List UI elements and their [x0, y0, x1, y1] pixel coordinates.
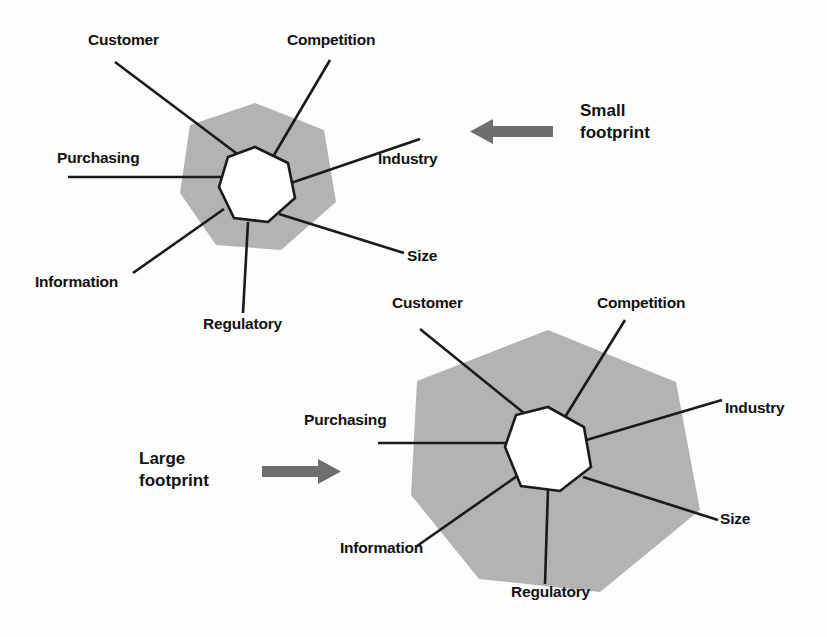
- small-label-customer: Customer: [88, 31, 159, 49]
- small-footprint-diagram: [68, 60, 420, 313]
- small-footprint-callout-line1: Small: [580, 100, 650, 122]
- large-label-size: Size: [720, 510, 750, 528]
- large-footprint-diagram: [378, 320, 722, 592]
- large-label-purchasing: Purchasing: [304, 411, 386, 429]
- small-spoke-customer: [115, 62, 240, 156]
- small-spoke-information: [133, 209, 224, 273]
- small-label-information: Information: [35, 273, 118, 291]
- small-label-competition: Competition: [287, 31, 375, 49]
- small-label-size: Size: [407, 247, 437, 265]
- small-footprint-arrow-icon: [470, 119, 553, 144]
- small-label-purchasing: Purchasing: [57, 149, 139, 167]
- large-label-regulatory: Regulatory: [511, 583, 590, 601]
- large-footprint-callout: Large footprint: [139, 448, 209, 492]
- large-label-industry: Industry: [725, 399, 785, 417]
- small-footprint-callout: Small footprint: [580, 100, 650, 144]
- large-footprint-callout-line2: footprint: [139, 470, 209, 492]
- small-footprint-callout-line2: footprint: [580, 122, 650, 144]
- small-label-regulatory: Regulatory: [203, 315, 282, 333]
- large-footprint-arrow-icon: [262, 459, 341, 484]
- small-label-industry: Industry: [378, 150, 438, 168]
- large-footprint-callout-line1: Large: [139, 448, 209, 470]
- large-label-customer: Customer: [392, 294, 463, 312]
- large-label-competition: Competition: [597, 294, 685, 312]
- large-label-information: Information: [340, 539, 423, 557]
